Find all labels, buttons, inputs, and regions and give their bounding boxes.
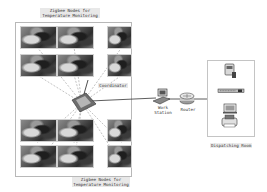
dispatching-room-devices xyxy=(0,0,267,192)
bottom-nodes-label: Zigbee Nodes for Temperature Monitoring xyxy=(72,177,130,187)
server-icon xyxy=(225,64,236,78)
monitor-icon xyxy=(223,104,237,114)
dispatching-room-label: Dispatching Room xyxy=(210,143,252,148)
rack-unit-icon xyxy=(218,89,244,93)
printer-icon xyxy=(222,115,237,127)
bottom-label-line-2: Temperature Monitoring xyxy=(73,182,129,187)
